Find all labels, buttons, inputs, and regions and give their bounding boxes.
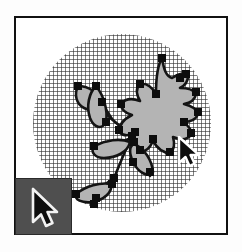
selection-handle[interactable] <box>102 118 110 126</box>
selection-handle[interactable] <box>180 118 188 126</box>
selection-handle[interactable] <box>136 146 144 154</box>
selection-handle[interactable] <box>158 54 166 62</box>
selection-handle[interactable] <box>92 82 100 90</box>
selection-handle[interactable] <box>74 82 82 90</box>
selection-handle[interactable] <box>187 129 195 137</box>
tool-button-selection-arrow[interactable] <box>15 178 72 235</box>
selection-handle[interactable] <box>149 135 157 143</box>
selection-handle[interactable] <box>90 142 98 150</box>
selection-handle[interactable] <box>72 190 80 198</box>
selection-handle[interactable] <box>90 200 98 208</box>
selection-handle[interactable] <box>176 74 184 82</box>
selection-handle[interactable] <box>98 98 106 106</box>
selection-handle[interactable] <box>152 90 160 98</box>
selection-handle[interactable] <box>108 180 116 188</box>
selection-handle[interactable] <box>129 158 137 166</box>
application-root <box>0 0 242 252</box>
selection-handle[interactable] <box>115 126 123 134</box>
selection-handle[interactable] <box>136 80 144 88</box>
selection-handle[interactable] <box>194 108 202 116</box>
tool-icon-wrapper <box>16 179 71 234</box>
selection-handle[interactable] <box>192 88 200 96</box>
selection-handle[interactable] <box>130 138 138 146</box>
arrow-cursor-icon <box>33 189 57 226</box>
selection-handle[interactable] <box>166 148 174 156</box>
selection-handle[interactable] <box>117 100 125 108</box>
selection-handle[interactable] <box>146 168 154 176</box>
